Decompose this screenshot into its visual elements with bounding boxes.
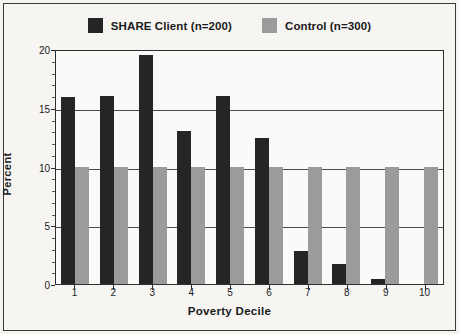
bar-share-client-decile-4: [177, 131, 191, 284]
bar-group-decile-6: [250, 51, 289, 284]
bar-share-client-decile-7: [294, 251, 308, 284]
x-tick-mark-4: [191, 285, 192, 290]
y-tick-label-0: 0: [26, 280, 50, 291]
bar-control-decile-3: [153, 167, 167, 285]
bar-group-decile-7: [288, 51, 327, 284]
bar-control-decile-2: [114, 167, 128, 285]
x-tick-mark-6: [269, 285, 270, 290]
bar-group-decile-4: [172, 51, 211, 284]
y-tick-label-10: 10: [26, 162, 50, 173]
bar-control-decile-7: [308, 167, 322, 285]
x-tick-mark-7: [308, 285, 309, 290]
bar-control-decile-5: [230, 167, 244, 285]
bar-groups: [56, 51, 443, 284]
y-tick-label-20: 20: [26, 45, 50, 56]
bar-group-decile-1: [56, 51, 95, 284]
x-tick-mark-8: [347, 285, 348, 290]
bar-share-client-decile-3: [139, 55, 153, 284]
y-tick-mark-0: [51, 285, 55, 286]
plot-area: [55, 50, 444, 285]
y-tick-label-5: 5: [26, 221, 50, 232]
bar-control-decile-4: [191, 167, 205, 285]
bar-group-decile-8: [327, 51, 366, 284]
bar-control-decile-1: [75, 167, 89, 285]
bar-share-client-decile-5: [216, 96, 230, 284]
figure-container: SHARE Client (n=200) Control (n=300) Per…: [0, 0, 459, 334]
x-tick-mark-1: [74, 285, 75, 290]
bar-group-decile-5: [211, 51, 250, 284]
bar-control-decile-6: [269, 167, 283, 285]
bar-group-decile-10: [404, 51, 443, 284]
bar-share-client-decile-1: [61, 97, 75, 284]
bar-group-decile-2: [95, 51, 134, 284]
x-tick-mark-10: [425, 285, 426, 290]
bar-control-decile-10: [424, 167, 438, 285]
bar-group-decile-9: [366, 51, 405, 284]
x-tick-mark-3: [152, 285, 153, 290]
bar-control-decile-8: [346, 167, 360, 285]
x-tick-mark-5: [230, 285, 231, 290]
x-tick-mark-2: [113, 285, 114, 290]
bar-share-client-decile-2: [100, 96, 114, 284]
y-tick-label-15: 15: [26, 103, 50, 114]
bar-group-decile-3: [133, 51, 172, 284]
bar-control-decile-9: [385, 167, 399, 285]
bar-share-client-decile-9: [371, 279, 385, 284]
x-tick-mark-9: [386, 285, 387, 290]
bar-share-client-decile-6: [255, 138, 269, 284]
bar-share-client-decile-8: [332, 264, 346, 284]
x-axis-label: Poverty Decile: [0, 305, 459, 317]
